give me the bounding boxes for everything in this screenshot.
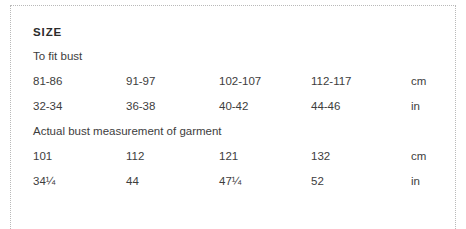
measurement-cell: 47¼ [219, 173, 241, 189]
table-row: 32-34 36-38 40-42 44-46 in [33, 98, 443, 123]
unit-label: cm [411, 148, 426, 164]
measurement-cell: 52 [311, 173, 324, 189]
actual-bust-label: Actual bust measurement of garment [33, 123, 443, 148]
measurement-cell: 132 [311, 148, 330, 164]
to-fit-bust-label: To fit bust [33, 48, 443, 73]
table-row: 81-86 91-97 102-107 112-117 cm [33, 73, 443, 98]
unit-label: in [411, 98, 420, 114]
measurement-cell: 36-38 [126, 98, 155, 114]
table-row: 34¼ 44 47¼ 52 in [33, 173, 443, 198]
measurement-cell: 112-117 [311, 73, 352, 89]
size-information-panel: SIZE To fit bust 81-86 91-97 102-107 112… [10, 5, 456, 229]
measurement-cell: 44-46 [311, 98, 340, 114]
table-row: 101 112 121 132 cm [33, 148, 443, 173]
measurement-cell: 32-34 [33, 98, 62, 114]
panel-content: SIZE To fit bust 81-86 91-97 102-107 112… [33, 24, 443, 198]
measurement-cell: 101 [33, 148, 52, 164]
unit-label: in [411, 173, 420, 189]
measurement-cell: 81-86 [33, 73, 62, 89]
measurement-cell: 34¼ [33, 173, 55, 189]
measurement-cell: 112 [126, 148, 144, 164]
measurement-cell: 44 [126, 173, 139, 189]
page-title: SIZE [33, 24, 443, 40]
measurement-cell: 40-42 [219, 98, 248, 114]
measurement-cell: 121 [219, 148, 238, 164]
measurement-cell: 91-97 [126, 73, 155, 89]
measurement-cell: 102-107 [219, 73, 261, 89]
unit-label: cm [411, 73, 426, 89]
